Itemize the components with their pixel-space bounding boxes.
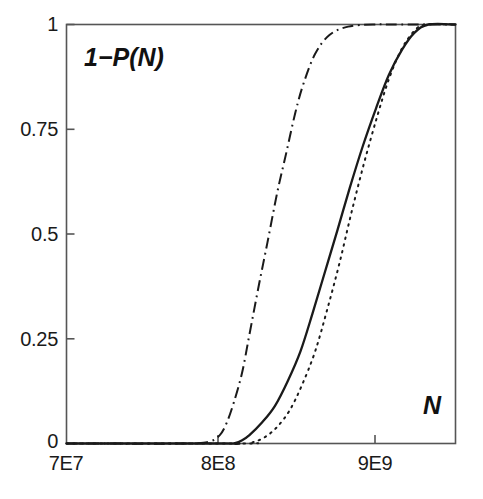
y-tick-label-075: 0.75	[4, 118, 58, 141]
x-tick-label-7e7: 7E7	[49, 452, 84, 475]
figure-canvas: 1 0.75 0.5 0.25 0 7E7 8E8 9E9 1−P(N) N	[0, 0, 483, 499]
y-tick-label-1: 1	[14, 13, 58, 36]
x-tick-label-9e9: 9E9	[358, 452, 393, 475]
x-tick-label-8e8: 8E8	[201, 452, 236, 475]
series-dashdot	[67, 24, 456, 443]
series-dotted	[67, 24, 456, 444]
series-solid	[67, 24, 456, 444]
data-curves	[67, 24, 456, 444]
y-tick-label-0: 0	[14, 430, 58, 453]
plot-area	[0, 0, 483, 499]
y-axis-title: 1−P(N)	[84, 43, 164, 72]
y-tick-marks	[67, 25, 75, 339]
y-tick-label-05: 0.5	[8, 223, 58, 246]
plot-frame	[67, 25, 456, 444]
x-axis-title: N	[423, 391, 441, 420]
y-tick-label-025: 0.25	[4, 328, 58, 351]
